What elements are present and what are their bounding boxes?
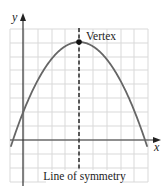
x-axis-label: x bbox=[153, 140, 160, 154]
parabola-diagram: y x Vertex Line of symmetry bbox=[0, 0, 168, 189]
vertex-point bbox=[76, 39, 82, 45]
y-axis-label: y bbox=[11, 10, 18, 24]
symmetry-label: Line of symmetry bbox=[43, 170, 126, 183]
background bbox=[0, 0, 168, 189]
vertex-label: Vertex bbox=[86, 30, 116, 42]
